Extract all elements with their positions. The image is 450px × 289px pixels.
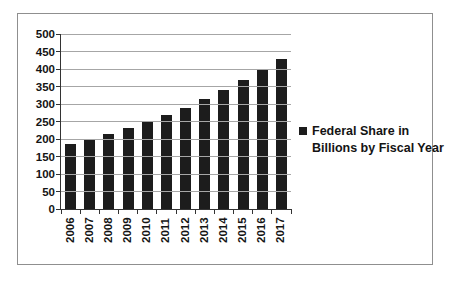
y-axis-label-0: 0: [23, 202, 55, 216]
y-axis-tick-300: [56, 104, 60, 105]
bar-2008: [103, 134, 114, 209]
x-axis-label-2008: 2008: [102, 217, 114, 243]
x-axis-label-2006: 2006: [64, 217, 76, 243]
y-axis-tick-500: [56, 34, 60, 35]
x-axis-label-2009: 2009: [121, 217, 133, 243]
x-axis-tick-6: [176, 209, 177, 214]
x-axis-label-2012: 2012: [179, 217, 191, 243]
bar-2011: [161, 115, 172, 209]
x-axis-label-2017: 2017: [274, 217, 286, 243]
y-axis-label-350: 350: [23, 80, 55, 94]
gridline-150: [61, 156, 291, 157]
y-axis-label-300: 300: [23, 97, 55, 111]
x-axis-label-2007: 2007: [83, 217, 95, 243]
x-axis-label-2014: 2014: [217, 217, 229, 243]
y-axis-tick-400: [56, 69, 60, 70]
y-axis-tick-250: [56, 121, 60, 122]
x-axis-tick-3: [118, 209, 119, 214]
y-axis-tick-200: [56, 139, 60, 140]
bar-2013: [199, 99, 210, 209]
x-axis-tick-7: [195, 209, 196, 214]
y-axis-label-200: 200: [23, 132, 55, 146]
gridline-400: [61, 69, 291, 70]
gridline-500: [61, 34, 291, 35]
y-axis-label-150: 150: [23, 150, 55, 164]
x-axis-tick-10: [252, 209, 253, 214]
gridline-50: [61, 191, 291, 192]
x-axis-label-2013: 2013: [198, 217, 210, 243]
chart-area: 050100150200250300350400450500 200620072…: [17, 13, 433, 265]
x-axis-label-2011: 2011: [159, 218, 171, 243]
legend-label-line2: Billions by Fiscal Year: [312, 140, 444, 157]
bar-2017: [276, 59, 287, 210]
x-axis-tick-1: [80, 209, 81, 214]
chart-image: 050100150200250300350400450500 200620072…: [0, 0, 450, 289]
y-axis-tick-0: [56, 209, 60, 210]
gridline-350: [61, 86, 291, 87]
y-axis-tick-50: [56, 191, 60, 192]
gridline-300: [61, 104, 291, 105]
bar-2015: [238, 80, 249, 209]
y-axis-label-250: 250: [23, 115, 55, 129]
x-axis-tick-2: [99, 209, 100, 214]
x-axis-tick-4: [137, 209, 138, 214]
x-axis-tick-0: [61, 209, 62, 214]
bar-2010: [142, 122, 153, 209]
y-axis-tick-100: [56, 174, 60, 175]
x-axis-label-2015: 2015: [236, 217, 248, 243]
legend-label: Federal Share in Billions by Fiscal Year: [312, 123, 444, 157]
y-axis-label-500: 500: [23, 27, 55, 41]
x-axis-label-2016: 2016: [255, 217, 267, 243]
y-axis-tick-350: [56, 86, 60, 87]
legend-label-line1: Federal Share in: [312, 123, 444, 140]
x-axis-tick-8: [214, 209, 215, 214]
y-axis-label-400: 400: [23, 62, 55, 76]
x-axis-tick-11: [271, 209, 272, 214]
y-axis-label-50: 50: [23, 185, 55, 199]
bar-2006: [65, 144, 76, 209]
bar-2012: [180, 108, 191, 210]
y-axis-label-100: 100: [23, 167, 55, 181]
x-axis-tick-12: [291, 209, 292, 214]
y-axis-tick-450: [56, 51, 60, 52]
x-axis-tick-9: [233, 209, 234, 214]
plot-area: [60, 34, 291, 210]
gridline-450: [61, 51, 291, 52]
gridline-100: [61, 174, 291, 175]
legend-square-icon: [299, 127, 307, 135]
gridline-250: [61, 121, 291, 122]
x-axis-tick-5: [156, 209, 157, 214]
gridline-200: [61, 139, 291, 140]
bar-2009: [123, 128, 134, 209]
x-axis-label-2010: 2010: [140, 217, 152, 243]
legend: Federal Share in Billions by Fiscal Year: [299, 123, 444, 157]
y-axis-label-450: 450: [23, 45, 55, 59]
y-axis-tick-150: [56, 156, 60, 157]
